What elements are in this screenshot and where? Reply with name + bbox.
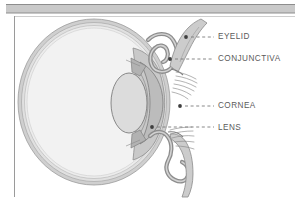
- label-eyelid: EYELID: [218, 33, 250, 41]
- label-conjunctiva: CONJUNCTIVA: [218, 55, 281, 63]
- lens: [111, 73, 147, 133]
- eye-anatomy-figure: EYELID CONJUNCTIVA CORNEA LENS: [0, 0, 295, 205]
- label-cornea: CORNEA: [218, 102, 256, 110]
- label-lens: LENS: [218, 124, 241, 132]
